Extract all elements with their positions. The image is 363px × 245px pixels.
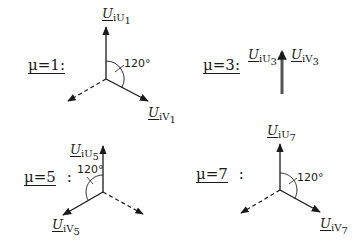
- index: 1: [125, 15, 131, 26]
- colon: :: [67, 168, 72, 186]
- mu-label-3: μ=3:: [203, 58, 240, 73]
- angle-tick: [87, 177, 93, 184]
- subscript: iV: [63, 223, 73, 234]
- subscript: iU: [113, 12, 125, 23]
- symbol: U: [148, 105, 159, 120]
- symbol: U: [267, 123, 278, 138]
- vector-label-iU3: UiU3: [248, 48, 277, 67]
- phasor-diagrams: [0, 0, 363, 245]
- symbol: U: [70, 142, 81, 157]
- vector-label-iV7: UiV7: [320, 217, 348, 236]
- mu-label-7: μ=7 :: [196, 167, 244, 182]
- vector-iV7-arrow: [280, 190, 320, 212]
- subscript: iV: [302, 53, 312, 64]
- symbol: U: [102, 6, 113, 21]
- vector-dashed-arrow: [68, 79, 106, 101]
- symbol: U: [52, 217, 63, 232]
- vector-dashed-arrow: [241, 190, 280, 213]
- symbol: U: [248, 47, 259, 62]
- vector-label-iV1: UiV1: [148, 106, 176, 125]
- mu-value: μ=5: [24, 168, 56, 186]
- mu-value: μ=3: [203, 56, 235, 74]
- vector-label-iU5: UiU5: [70, 143, 99, 162]
- vector-label-iU1: UiU1: [102, 7, 131, 26]
- colon: :: [235, 56, 240, 74]
- symbol: U: [320, 216, 331, 231]
- mu-label-1: μ=1:: [28, 58, 65, 73]
- mu-value: μ=1: [28, 56, 60, 74]
- colon: :: [239, 165, 244, 183]
- index: 3: [271, 56, 277, 67]
- vector-label-iV5: UiV5: [52, 218, 80, 237]
- mu-label-5: μ=5 :: [24, 170, 72, 185]
- index: 3: [312, 56, 318, 67]
- subscript: iU: [278, 129, 290, 140]
- subscript: iV: [331, 222, 341, 233]
- mu-value: μ=7: [196, 165, 228, 183]
- symbol: U: [291, 47, 302, 62]
- subscript: iU: [259, 53, 271, 64]
- index: 5: [93, 151, 99, 162]
- angle-label-1: 120°: [124, 58, 151, 69]
- colon: :: [60, 56, 65, 74]
- angle-label-5: 120°: [77, 164, 104, 175]
- vector-label-iV3: UiV3: [291, 48, 319, 67]
- index: 7: [341, 225, 347, 236]
- index: 1: [169, 114, 175, 125]
- vector-iV1-arrow: [106, 79, 148, 101]
- index: 5: [73, 226, 79, 237]
- vector-label-iU7: UiU7: [267, 124, 296, 143]
- index: 7: [290, 132, 296, 143]
- vector-iV5-arrow: [63, 192, 103, 215]
- angle-label-7: 120°: [297, 172, 324, 183]
- subscript: iU: [81, 148, 93, 159]
- vector-dashed-arrow: [103, 192, 143, 214]
- angle-tick: [115, 65, 124, 72]
- subscript: iV: [159, 111, 169, 122]
